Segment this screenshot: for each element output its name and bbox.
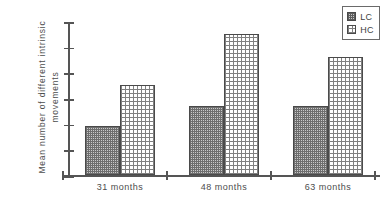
plot-area bbox=[68, 18, 380, 176]
y-axis-tick bbox=[64, 99, 74, 101]
x-axis-tick-labels: 31 months 48 months 63 months bbox=[62, 182, 386, 198]
y-axis-tick bbox=[64, 176, 74, 178]
x-tick-label-48-months: 48 months bbox=[201, 182, 248, 192]
bar-hc-31-months bbox=[120, 85, 155, 175]
x-axis-line bbox=[62, 175, 380, 177]
x-tick-label-31-months: 31 months bbox=[97, 182, 144, 192]
bar-lc-63-months bbox=[293, 106, 328, 175]
x-tick-label-63-months: 63 months bbox=[305, 182, 352, 192]
bar-hc-63-months bbox=[328, 57, 363, 175]
y-axis-tick bbox=[64, 150, 74, 152]
bar-lc-31-months bbox=[85, 126, 120, 175]
y-axis-title: Mean number of different intrinsic movem… bbox=[36, 4, 62, 190]
y-axis-tick bbox=[64, 73, 74, 75]
y-axis-title-container: Mean number of different intrinsic movem… bbox=[0, 0, 42, 195]
legend-item-lc: LC bbox=[347, 10, 374, 23]
legend-item-hc: HC bbox=[347, 23, 374, 36]
legend-swatch-hc-icon bbox=[347, 25, 356, 34]
legend: LC HC bbox=[342, 6, 380, 40]
y-axis-tick bbox=[64, 48, 74, 50]
bar-hc-48-months bbox=[224, 34, 259, 175]
legend-label-lc: LC bbox=[360, 12, 372, 22]
x-axis-separator-tick bbox=[374, 171, 376, 180]
legend-label-hc: HC bbox=[360, 25, 374, 35]
bar-chart-figure: Mean number of different intrinsic movem… bbox=[0, 0, 388, 206]
x-axis-separator-tick bbox=[270, 171, 272, 180]
y-axis-title-line-2: movements bbox=[49, 4, 62, 190]
legend-swatch-lc-icon bbox=[347, 12, 356, 21]
y-axis-tick bbox=[64, 22, 74, 24]
bar-lc-48-months bbox=[189, 106, 224, 175]
x-axis-separator-tick bbox=[62, 171, 64, 180]
x-axis-separator-tick bbox=[166, 171, 168, 180]
y-axis-tick bbox=[64, 125, 74, 127]
y-axis-title-line-1: Mean number of different intrinsic bbox=[37, 20, 47, 173]
